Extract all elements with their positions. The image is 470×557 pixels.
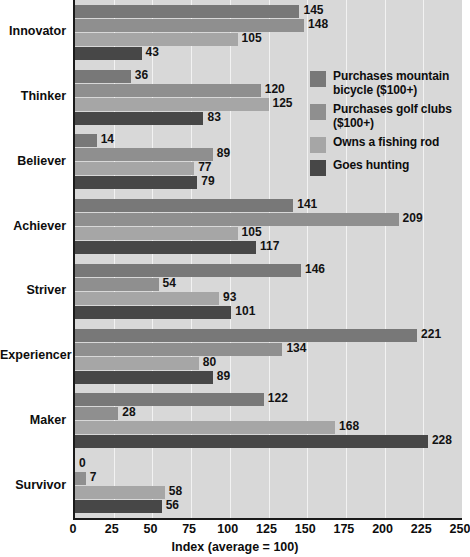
category-label-thinker: Thinker — [0, 89, 66, 103]
bar-value-label: 43 — [146, 45, 159, 60]
bar-value-label: 77 — [198, 160, 211, 175]
bar-row[interactable]: 7 — [75, 472, 462, 485]
bar[interactable] — [75, 407, 118, 420]
bar-value-label: 7 — [90, 470, 97, 485]
x-tick-label: 125 — [256, 522, 277, 536]
bar-row[interactable]: 58 — [75, 486, 462, 499]
x-tick-label: 175 — [333, 522, 354, 536]
bar[interactable] — [75, 329, 417, 342]
bar[interactable] — [75, 343, 282, 356]
bar-group: 2211348089 — [75, 329, 462, 385]
bar-row[interactable]: 80 — [75, 357, 462, 370]
bar[interactable] — [75, 371, 213, 384]
bar-row[interactable]: 101 — [75, 306, 462, 319]
category-label-believer: Believer — [0, 154, 66, 168]
bar-value-label: 0 — [79, 456, 86, 471]
vals-index-bar-chart: 1451481054336120125831489777914120910511… — [0, 0, 470, 557]
bar-row[interactable]: 228 — [75, 435, 462, 448]
bar[interactable] — [75, 199, 293, 212]
bar[interactable] — [75, 306, 231, 319]
bar-value-label: 14 — [101, 132, 114, 147]
bar-value-label: 134 — [286, 341, 306, 356]
bar[interactable] — [75, 241, 256, 254]
bar-row[interactable]: 43 — [75, 47, 462, 60]
bar[interactable] — [75, 162, 194, 175]
legend-item[interactable]: Purchases mountain bicycle ($100+) — [310, 70, 466, 97]
bar[interactable] — [75, 213, 399, 226]
bar-value-label: 209 — [403, 211, 423, 226]
category-label-experiencer: Experiencer — [0, 348, 66, 362]
bar[interactable] — [75, 500, 162, 513]
bar-value-label: 105 — [242, 31, 262, 46]
bar[interactable] — [75, 148, 213, 161]
bar[interactable] — [75, 278, 159, 291]
bar-row[interactable]: 146 — [75, 264, 462, 277]
bar-value-label: 146 — [305, 262, 325, 277]
bar-row[interactable]: 168 — [75, 421, 462, 434]
bar-row[interactable]: 134 — [75, 343, 462, 356]
legend-item[interactable]: Purchases golf clubs ($100+) — [310, 103, 466, 130]
bar-value-label: 145 — [303, 3, 323, 18]
bar[interactable] — [75, 84, 261, 97]
bar[interactable] — [75, 47, 142, 60]
bar-row[interactable]: 117 — [75, 241, 462, 254]
bar-row[interactable]: 105 — [75, 33, 462, 46]
x-tick-label: 0 — [70, 522, 77, 536]
bar[interactable] — [75, 5, 299, 18]
bar-value-label: 101 — [235, 304, 255, 319]
legend-label: Owns a fishing rod — [333, 136, 439, 150]
x-tick-label: 200 — [372, 522, 393, 536]
bar[interactable] — [75, 486, 165, 499]
bar[interactable] — [75, 134, 97, 147]
bar-row[interactable]: 56 — [75, 500, 462, 513]
legend-label: Goes hunting — [333, 159, 409, 173]
bar-row[interactable]: 93 — [75, 292, 462, 305]
x-tick-label: 250 — [450, 522, 470, 536]
bar-value-label: 54 — [163, 276, 176, 291]
bar[interactable] — [75, 421, 335, 434]
bar[interactable] — [75, 19, 304, 32]
bar-value-label: 80 — [203, 355, 216, 370]
bar-value-label: 56 — [166, 498, 179, 513]
bar-row[interactable]: 209 — [75, 213, 462, 226]
bar-value-label: 36 — [135, 68, 148, 83]
bar[interactable] — [75, 264, 301, 277]
bar-value-label: 168 — [339, 419, 359, 434]
bar-value-label: 79 — [201, 174, 214, 189]
bar[interactable] — [75, 227, 238, 240]
bar[interactable] — [75, 435, 428, 448]
bar[interactable] — [75, 393, 264, 406]
legend-swatch — [310, 160, 326, 176]
bar-row[interactable]: 221 — [75, 329, 462, 342]
category-label-achiever: Achiever — [0, 219, 66, 233]
bar[interactable] — [75, 176, 197, 189]
bar-group: 141209105117 — [75, 199, 462, 255]
category-label-striver: Striver — [0, 283, 66, 297]
x-tick-label: 25 — [105, 522, 119, 536]
bar-group: 075856 — [75, 458, 462, 514]
bar-value-label: 125 — [273, 96, 293, 111]
bar-value-label: 58 — [169, 484, 182, 499]
bar[interactable] — [75, 292, 219, 305]
x-tick-label: 225 — [411, 522, 432, 536]
legend-item[interactable]: Owns a fishing rod — [310, 136, 466, 153]
category-label-innovator: Innovator — [0, 24, 66, 38]
bar[interactable] — [75, 357, 199, 370]
bar-row[interactable]: 0 — [75, 458, 462, 471]
legend-swatch — [310, 104, 326, 120]
bar[interactable] — [75, 472, 86, 485]
chart-legend: Purchases mountain bicycle ($100+)Purcha… — [310, 70, 466, 182]
x-tick-label: 150 — [295, 522, 316, 536]
category-label-survivor: Survivor — [0, 478, 66, 492]
bar-value-label: 120 — [265, 82, 285, 97]
bar[interactable] — [75, 112, 203, 125]
bar-row[interactable]: 145 — [75, 5, 462, 18]
bar-row[interactable]: 148 — [75, 19, 462, 32]
bar[interactable] — [75, 70, 131, 83]
bar-row[interactable]: 89 — [75, 371, 462, 384]
bar-row[interactable]: 54 — [75, 278, 462, 291]
bar-row[interactable]: 28 — [75, 407, 462, 420]
bar-value-label: 89 — [217, 369, 230, 384]
legend-item[interactable]: Goes hunting — [310, 159, 466, 176]
bar[interactable] — [75, 98, 269, 111]
